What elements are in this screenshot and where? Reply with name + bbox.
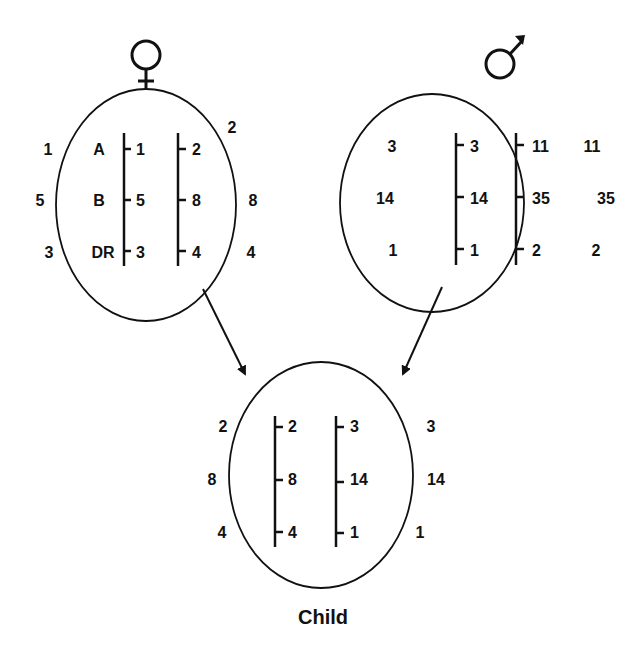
child-outer-left-b: 8	[208, 471, 217, 488]
child-outer-left-dr: 4	[218, 524, 227, 541]
child-outer-left-a: 2	[219, 418, 228, 435]
father-outer-right-a: 11	[584, 138, 601, 155]
locus-label-a: A	[93, 141, 105, 158]
mother-chromosome-1	[124, 133, 131, 266]
child-outer-right-dr: 1	[416, 524, 425, 541]
hla-inheritance-diagram: 1 5 3 2 8 4 A B DR 1 5 3 2 8 4	[0, 0, 644, 657]
father-cell	[340, 94, 524, 312]
father-chromosome-2	[516, 133, 524, 265]
father-chromosome-1	[456, 133, 464, 265]
father-chr2-b: 35	[532, 190, 550, 207]
child-label: Child	[298, 606, 348, 628]
mother-chromosome-2	[178, 133, 186, 266]
child-chr1-b: 8	[288, 471, 297, 488]
mother-chr1-dr: 3	[136, 244, 145, 261]
female-symbol-icon	[132, 41, 160, 90]
child-chr2-dr: 1	[350, 524, 359, 541]
mother-chr2-b: 8	[192, 192, 201, 209]
mother-outer-right-dr: 4	[247, 244, 256, 261]
mother-outer-left-a: 1	[44, 141, 53, 158]
mother-outer-left-b: 5	[36, 192, 45, 209]
mother-chr2-dr: 4	[192, 244, 201, 261]
mother-outer-left-dr: 3	[45, 244, 54, 261]
child-group: 2 8 4 3 14 1 2 8 4 3 14 1 Child	[208, 362, 445, 628]
father-chr1-dr: 1	[470, 242, 479, 259]
father-chr2-dr: 2	[532, 242, 541, 259]
locus-label-dr: DR	[91, 244, 115, 261]
child-chr2-b: 14	[350, 471, 368, 488]
child-outer-right-b: 14	[427, 471, 445, 488]
father-chr1-a: 3	[470, 138, 479, 155]
arrow-father-to-child	[403, 287, 442, 374]
child-chr1-dr: 4	[288, 524, 297, 541]
father-chr1-b: 14	[470, 190, 488, 207]
father-group: 3 14 1 11 35 2 3 14 1 11 35 2	[340, 35, 615, 312]
mother-chr1-b: 5	[136, 192, 145, 209]
mother-group: 1 5 3 2 8 4 A B DR 1 5 3 2 8 4	[36, 41, 258, 321]
mother-chr2-a: 2	[192, 141, 201, 158]
child-chr2-a: 3	[350, 418, 359, 435]
father-chr2-a: 11	[532, 138, 549, 155]
child-cell	[229, 362, 413, 588]
child-outer-right-a: 3	[427, 418, 436, 435]
father-outer-right-b: 35	[597, 190, 615, 207]
father-outer-left-dr: 1	[389, 242, 398, 259]
male-symbol-icon	[486, 35, 525, 78]
locus-label-b: B	[93, 192, 105, 209]
father-outer-right-dr: 2	[592, 242, 601, 259]
mother-outer-right-a: 2	[228, 119, 237, 136]
mother-chr1-a: 1	[136, 141, 145, 158]
child-chromosome-2	[336, 416, 344, 547]
child-chromosome-1	[275, 416, 283, 547]
arrow-mother-to-child	[203, 289, 245, 374]
child-chr1-a: 2	[288, 418, 297, 435]
father-outer-left-b: 14	[376, 190, 394, 207]
mother-outer-right-b: 8	[249, 192, 258, 209]
father-outer-left-a: 3	[388, 138, 397, 155]
mother-cell	[56, 89, 236, 321]
